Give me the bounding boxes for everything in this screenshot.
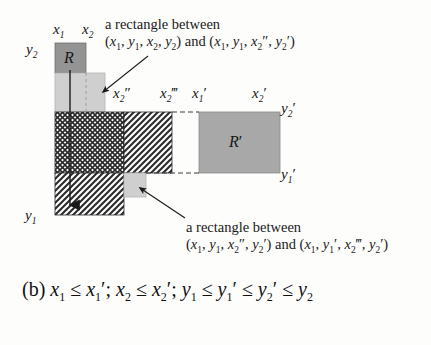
axis-label-x2: x2: [82, 22, 93, 41]
annotation-top-line2: (x1, y1, x2, y2) and (x1, y1, x2″, y2′): [105, 33, 295, 56]
annotation-bottom-line2: (x1, y1, x2″, y2′) and (x1, y1′, x2‴, y2…: [186, 236, 388, 259]
region-between-second-light-block: [124, 173, 146, 197]
annotation-top-line1: a rectangle between: [105, 16, 220, 33]
axis-label-y2-prime: y2′: [281, 101, 295, 120]
axis-label-x1-prime: x1′: [192, 86, 206, 105]
region-label-R: R: [64, 50, 74, 66]
annotation-bottom-line1: a rectangle between: [186, 219, 301, 236]
axis-label-y1: y1: [25, 208, 36, 227]
axis-label-x2-double-prime: x2″: [113, 86, 130, 105]
axis-label-x2-prime: x2′: [252, 86, 266, 105]
leader-arrow-bottom-note: [140, 188, 185, 218]
region-label-R-prime: R′: [229, 134, 242, 150]
axis-label-y1-prime: y1′: [281, 167, 295, 186]
region-diaghatch-lower-block: [55, 173, 124, 215]
axis-label-y2: y2: [26, 42, 37, 61]
caption-label: (b): [22, 278, 50, 300]
axis-label-x2-triple-prime: x2‴: [160, 86, 177, 105]
region-diaghatch-upper-block: [124, 112, 172, 173]
region-between-xy-light-block: [55, 73, 105, 112]
figure-page: a rectangle between (x1, y1, x2, y2) and…: [0, 0, 431, 345]
region-crosshatch-block: [55, 112, 124, 173]
axis-label-x1: x1: [53, 22, 64, 41]
figure-caption: (b) x1 ≤ x1′; x2 ≤ x2′; y1 ≤ y1′ ≤ y2′ ≤…: [22, 276, 422, 310]
